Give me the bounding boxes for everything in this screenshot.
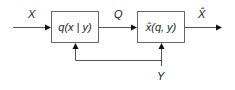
decoder-label: x̂(q, y)	[145, 21, 177, 33]
side-info-label-y: Y	[157, 70, 165, 82]
input-label-x: X	[27, 8, 36, 20]
side-info-arrow-icon	[159, 43, 165, 49]
encoder-label: q(x | y)	[58, 21, 92, 33]
q-label: Q	[114, 8, 123, 20]
block-diagram: X q(x | y) Q x̂(q, y) X̂ Y	[0, 0, 235, 90]
output-arrow-icon	[216, 25, 222, 31]
q-arrow-icon	[131, 25, 137, 31]
input-arrow-icon	[45, 25, 51, 31]
feedback-arrow-icon	[73, 43, 79, 49]
output-label-xhat: X̂	[197, 7, 206, 20]
side-info-feedback-line	[76, 47, 162, 61]
